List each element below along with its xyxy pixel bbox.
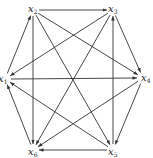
node-subscript: 2 [34, 8, 38, 15]
node-subscript: 5 [114, 151, 118, 158]
edge-x5-to-x1 [10, 82, 108, 146]
edge-x2-to-x4 [38, 13, 138, 75]
node-label-x1: x1 [0, 73, 7, 85]
edge-x4-to-x6 [38, 81, 138, 146]
node-label-x6: x6 [28, 146, 38, 158]
node-subscript: 4 [147, 77, 151, 84]
edge-x3-to-x4 [115, 16, 140, 73]
edges-layer [7, 10, 141, 150]
node-subscript: 3 [114, 8, 118, 15]
node-label-x5: x5 [108, 146, 118, 158]
tournament-graph-diagram: x1x2x3x4x5x6 [0, 0, 153, 158]
node-label-x2: x2 [28, 3, 38, 15]
node-subscript: 6 [34, 151, 38, 158]
graph-canvas: x1x2x3x4x5x6 [0, 0, 153, 158]
node-label-x4: x4 [141, 72, 151, 84]
nodes-layer: x1x2x3x4x5x6 [0, 3, 151, 158]
edge-x4-to-x5 [115, 84, 140, 145]
node-subscript: 1 [4, 78, 8, 85]
node-label-x3: x3 [108, 3, 118, 15]
